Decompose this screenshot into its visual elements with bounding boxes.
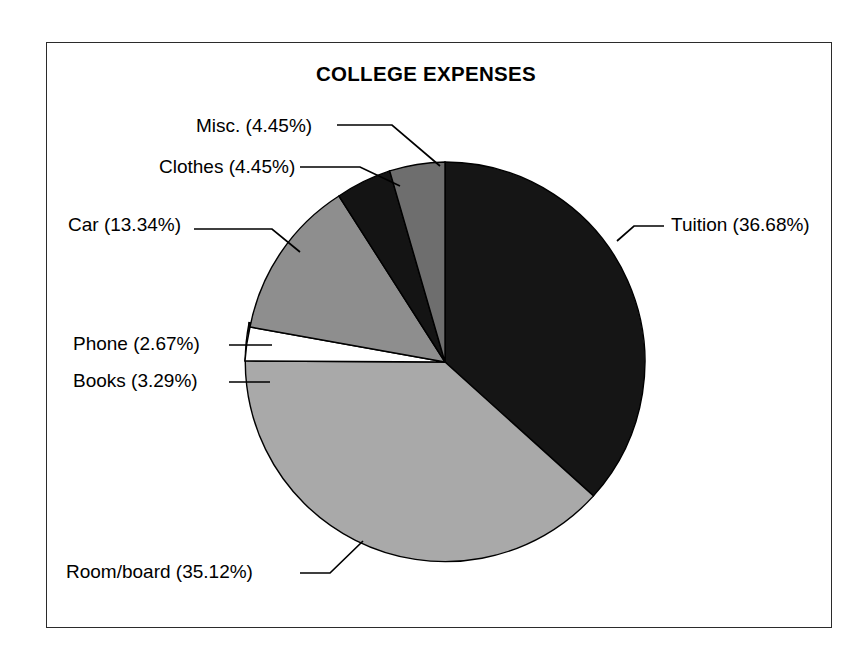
slice-label-tuition: Tuition (36.68%): [671, 215, 810, 234]
slice-label-clothes: Clothes (4.45%): [159, 157, 295, 176]
slice-label-misc: Misc. (4.45%): [196, 116, 312, 135]
figure-root: COLLEGE EXPENSES Misc. (4.45%) Clothes (…: [0, 0, 852, 667]
chart-title: COLLEGE EXPENSES: [0, 62, 852, 86]
slice-label-room-board: Room/board (35.12%): [66, 562, 253, 581]
slice-label-car: Car (13.34%): [68, 215, 181, 234]
slice-label-books: Books (3.29%): [73, 371, 198, 390]
slice-label-phone: Phone (2.67%): [73, 334, 200, 353]
